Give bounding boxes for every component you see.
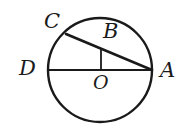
point-label-d: D: [19, 58, 36, 79]
point-label-o: O: [93, 73, 109, 92]
point-label-b: B: [103, 21, 118, 42]
geometry-figure: C B D A O: [0, 0, 186, 134]
point-label-c: C: [44, 11, 60, 32]
point-label-a: A: [160, 60, 175, 81]
